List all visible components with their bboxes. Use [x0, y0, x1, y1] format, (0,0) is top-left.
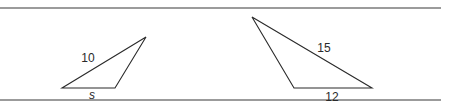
right-triangle-shape [252, 17, 372, 88]
left-triangle-side-label: 10 [81, 51, 95, 65]
left-triangle: 10 s [62, 37, 146, 102]
similar-triangles-figure: 10 s 15 12 [0, 0, 460, 112]
left-triangle-base-label: s [89, 88, 95, 102]
right-triangle: 15 12 [252, 17, 372, 104]
right-triangle-base-label: 12 [325, 90, 339, 104]
left-triangle-shape [62, 37, 146, 88]
right-triangle-side-label: 15 [317, 41, 331, 55]
